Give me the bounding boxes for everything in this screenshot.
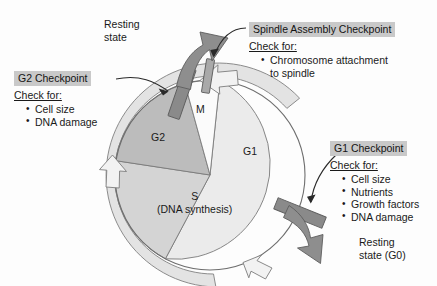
callout-g1-item: DNA damage — [342, 211, 419, 224]
cycle-circle — [114, 80, 305, 270]
callout-g2-item: Cell size — [26, 103, 97, 116]
callout-spindle-item: Chromosome attachment — [261, 54, 395, 67]
resting-state-g0-line2: state (G0) — [359, 249, 406, 262]
callout-spindle-title: Spindle Assembly Checkpoint — [249, 22, 395, 37]
callout-g1-title: G1 Checkpoint — [330, 141, 407, 156]
phase-label-s: S (DNA synthesis) — [157, 190, 232, 215]
callout-spindle-item-continued: to spindle — [261, 67, 395, 80]
resting-state-label-g0: Resting state (G0) — [359, 236, 406, 261]
callout-g2-check-label: Check for: — [14, 89, 97, 102]
phase-label-g2: G2 — [151, 131, 165, 144]
callout-g1-check-label: Check for: — [330, 159, 419, 172]
callout-g2-title: G2 Checkpoint — [14, 71, 91, 86]
callout-g2-item: DNA damage — [26, 116, 97, 129]
callout-spindle-assembly-checkpoint: Spindle Assembly Checkpoint Check for: C… — [249, 19, 395, 79]
phase-label-s-main: S — [157, 190, 232, 203]
ring-arrowhead-bottom — [243, 255, 272, 279]
resting-state-top-line2: state — [104, 31, 140, 44]
callout-g1-item: Growth factors — [342, 198, 419, 211]
phase-label-g1: G1 — [243, 145, 257, 158]
callout-g1-item: Cell size — [342, 173, 419, 186]
phase-label-m: M — [196, 103, 205, 116]
resting-state-label-top: Resting state — [104, 18, 140, 43]
callout-g2-list: Cell size DNA damage — [14, 103, 97, 128]
phase-label-s-sub: (DNA synthesis) — [157, 203, 232, 216]
callout-g1-item: Nutrients — [342, 186, 419, 199]
callout-spindle-check-label: Check for: — [249, 40, 395, 53]
callout-g1-checkpoint: G1 Checkpoint Check for: Cell size Nutri… — [330, 138, 419, 223]
callout-spindle-list: Chromosome attachment to spindle — [249, 54, 395, 79]
callout-g1-list: Cell size Nutrients Growth factors DNA d… — [330, 173, 419, 223]
resting-state-top-line1: Resting — [104, 18, 140, 31]
cell-cycle-diagram: M G2 G1 S (DNA synthesis) Resting state … — [0, 0, 437, 286]
resting-state-g0-line1: Resting — [359, 236, 406, 249]
callout-g2-checkpoint: G2 Checkpoint Check for: Cell size DNA d… — [14, 68, 97, 128]
